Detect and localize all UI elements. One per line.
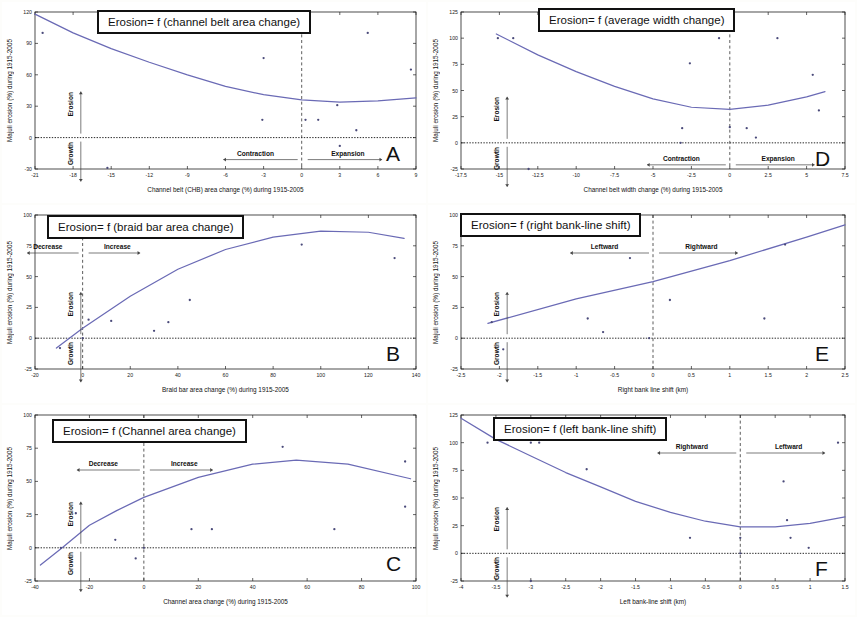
data-point: [629, 257, 631, 259]
y-tick-label: 100: [449, 212, 458, 218]
y-tick-label: 100: [23, 212, 32, 218]
panel-letter: B: [386, 342, 400, 366]
panel-title-box: Erosion= f (channel belt area change): [97, 10, 311, 34]
x-tick-label: 80: [359, 584, 365, 590]
x-tick-label: 40: [175, 372, 181, 378]
y-tick-label: 0: [29, 335, 32, 341]
y-axis-title: Majuli erosion (%) during 1915-2005: [6, 18, 13, 163]
panel-letter: E: [815, 342, 829, 366]
x-tick-label: 1: [809, 584, 812, 590]
data-point: [530, 580, 532, 582]
x-tick-label: -17.5: [455, 172, 467, 178]
y-tick-label: -25: [451, 166, 459, 172]
right-region-annotation: Leftward: [744, 443, 833, 450]
x-tick-label: 0: [652, 372, 655, 378]
data-point: [153, 330, 155, 332]
growth-annotation: Growth: [67, 552, 74, 575]
data-point: [190, 528, 192, 530]
x-tick-label: 0: [81, 372, 84, 378]
growth-annotation: Growth: [493, 557, 500, 580]
y-axis-title: Majuli erosion (%) during 1915-2005: [6, 421, 13, 575]
x-tick-label: -1: [574, 372, 579, 378]
x-axis-title: Left bank-line shift (km): [461, 598, 845, 605]
y-tick-label: -25: [25, 366, 33, 372]
y-tick-label: 25: [452, 114, 458, 120]
x-tick-label: -10: [572, 172, 580, 178]
y-tick-label: 0: [455, 550, 458, 556]
x-tick-label: -15: [496, 172, 504, 178]
data-point: [355, 129, 357, 131]
data-point: [784, 243, 786, 245]
data-point: [367, 32, 369, 34]
erosion-annotation: Erosion: [67, 292, 74, 317]
x-axis-title: Channel belt (CHB) area change (%) durin…: [35, 186, 416, 193]
x-tick-label: 7.5: [841, 172, 848, 178]
panel-b: -20020406080100120140-250255075100Erosio…: [2, 205, 426, 403]
data-point: [818, 109, 820, 111]
plot-frame: [461, 12, 845, 169]
x-axis-title: Braid bar area change (%) during 1915-20…: [35, 386, 416, 393]
data-point: [333, 528, 335, 530]
x-tick-label: -2.5: [561, 584, 570, 590]
right-region-annotation: Expansion: [306, 150, 390, 157]
y-axis-title: Majuli erosion (%) during 1915-2005: [432, 18, 439, 163]
data-point: [75, 512, 77, 514]
data-point: [527, 168, 529, 170]
x-tick-label: 2.5: [765, 172, 772, 178]
data-point: [681, 127, 683, 129]
x-tick-label: -2: [497, 372, 502, 378]
x-tick-label: 0.5: [688, 372, 695, 378]
right-region-annotation: Increase: [87, 243, 149, 250]
panel-f: -4-3.5-3-2.5-2-1.5-1-0.500.511.5-2502550…: [428, 405, 855, 615]
y-tick-label: 75: [26, 445, 32, 451]
data-point: [41, 32, 43, 34]
x-tick-label: -2.5: [687, 172, 696, 178]
y-tick-label: 100: [449, 35, 458, 41]
y-tick-label: -25: [25, 578, 33, 584]
growth-annotation: Growth: [67, 342, 74, 365]
x-tick-label: 80: [270, 372, 276, 378]
data-point: [301, 243, 303, 245]
data-point: [538, 442, 540, 444]
erosion-annotation: Erosion: [493, 507, 500, 532]
data-point: [530, 442, 532, 444]
data-point: [837, 442, 839, 444]
x-tick-label: -1: [668, 584, 673, 590]
y-tick-label: -25: [451, 578, 459, 584]
data-point: [512, 37, 514, 39]
x-axis-title: Channel belt width change (%) during 191…: [461, 186, 845, 193]
erosion-annotation: Erosion: [493, 97, 500, 122]
x-tick-label: -20: [31, 372, 39, 378]
data-point: [261, 119, 263, 121]
y-axis-title: Majuli erosion (%) during 1915-2005: [6, 221, 13, 363]
y-tick-label: 0: [29, 545, 32, 551]
panel-e: -2.5-2-1.5-1-0.500.511.522.5-25025507510…: [428, 205, 855, 403]
data-point: [114, 539, 116, 541]
left-region-annotation: Contraction: [213, 150, 297, 157]
x-tick-label: 0: [300, 172, 303, 178]
data-point: [189, 299, 191, 301]
y-tick-label: 50: [452, 495, 458, 501]
erosion-annotation: Erosion: [493, 292, 500, 317]
data-point: [106, 167, 108, 169]
x-tick-label: 120: [364, 372, 373, 378]
y-tick-label: 125: [449, 9, 458, 15]
panel-c: -40-20020406080100-250255075100Erosion= …: [2, 405, 426, 615]
data-point: [304, 119, 306, 121]
data-point: [689, 537, 691, 539]
y-tick-label: 50: [452, 88, 458, 94]
y-tick-label: 120: [23, 9, 32, 15]
y-tick-label: -25: [451, 366, 459, 372]
growth-annotation: Growth: [67, 142, 74, 165]
erosion-annotation: Erosion: [67, 502, 74, 527]
data-point: [586, 468, 588, 470]
data-point: [135, 557, 137, 559]
left-region-annotation: Rightward: [647, 443, 736, 450]
y-tick-label: 30: [26, 103, 32, 109]
data-point: [404, 460, 406, 462]
data-point: [211, 528, 213, 530]
left-region-annotation: Leftward: [560, 243, 649, 250]
data-point: [739, 537, 741, 539]
x-tick-label: 1: [728, 372, 731, 378]
x-tick-label: 5: [805, 172, 808, 178]
